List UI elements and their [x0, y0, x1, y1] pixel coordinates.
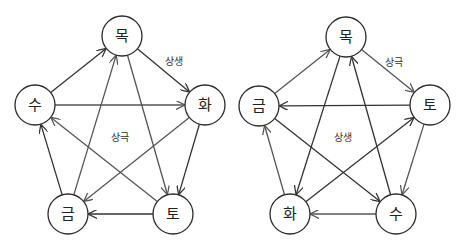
arrow-hwa-to-geum [265, 126, 285, 195]
node-label: 수 [28, 96, 42, 114]
diagram-left-sangsaeng-outer: 목화토금수상생상극 [15, 16, 225, 234]
label-sangsaeng: 상생 [334, 132, 352, 143]
arrow-to-to-geum [280, 105, 410, 106]
arrow-geum-to-mok [275, 50, 330, 94]
arrow-to-to-su [52, 118, 158, 202]
node-label: 목 [115, 27, 129, 45]
five-elements-diagram: 목화토금수상생상극 목토수화금상극상생 [0, 0, 460, 250]
arrow-mok-to-to [128, 55, 168, 194]
label-sangsaeng: 상생 [165, 56, 183, 67]
label-sanggeuk: 상극 [385, 57, 403, 68]
node-geum: 금 [239, 86, 279, 126]
node-to: 토 [410, 85, 450, 125]
arrow-su-to-mok [352, 57, 391, 195]
node-hwa: 화 [185, 85, 225, 125]
node-label: 화 [198, 96, 212, 114]
node-geum: 금 [48, 194, 88, 234]
node-label: 화 [283, 205, 297, 223]
label-sanggeuk: 상극 [111, 132, 129, 143]
node-label: 금 [61, 205, 75, 223]
node-label: 목 [339, 28, 353, 46]
node-label: 수 [389, 205, 403, 223]
diagram-right-sanggeuk-outer: 목토수화금상극상생 [239, 17, 450, 234]
arrow-geum-to-mok [74, 56, 116, 195]
arrow-hwa-to-to [179, 124, 200, 194]
node-su: 수 [15, 85, 55, 125]
node-su: 수 [376, 194, 416, 234]
node-mok: 목 [102, 16, 142, 56]
arrow-geum-to-su [41, 125, 62, 195]
node-label: 토 [423, 96, 437, 114]
node-label: 금 [252, 97, 266, 115]
arrow-to-to-su [402, 124, 424, 194]
arrow-su-to-mok [51, 49, 106, 93]
node-label: 토 [166, 205, 180, 223]
arrow-mok-to-hwa [296, 56, 340, 194]
arrow-hwa-to-geum [84, 118, 189, 201]
node-to: 토 [153, 194, 193, 234]
arrow-hwa-to-to [306, 118, 414, 202]
node-hwa: 화 [270, 194, 310, 234]
arrow-geum-to-su [275, 118, 380, 201]
node-mok: 목 [326, 17, 366, 57]
